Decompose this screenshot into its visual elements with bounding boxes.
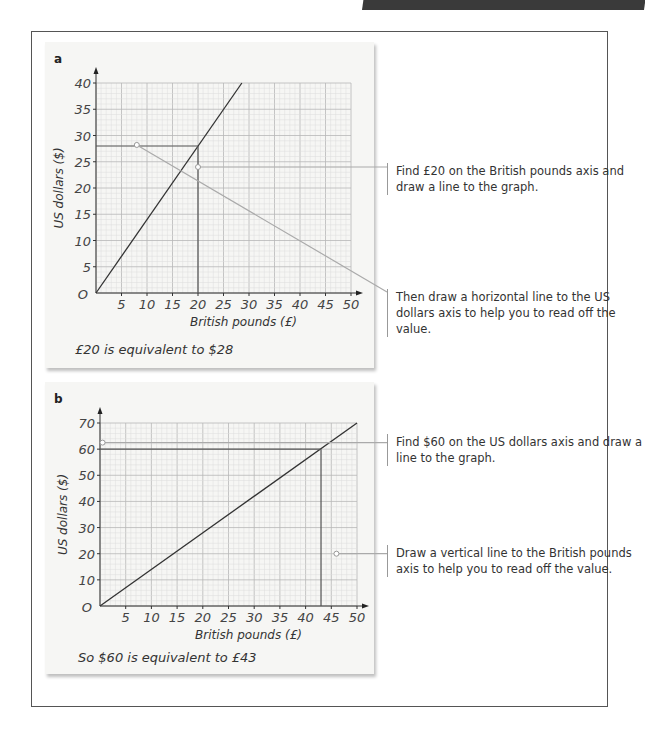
origin-label: O bbox=[78, 287, 88, 302]
callout-marker-icon bbox=[100, 440, 105, 445]
callout-text: Draw a vertical line to the British poun… bbox=[396, 546, 632, 576]
x-tick-label: 5 bbox=[122, 610, 130, 625]
y-tick-label: 15 bbox=[74, 207, 91, 222]
y-tick-label: 10 bbox=[74, 234, 91, 249]
x-tick-label: 50 bbox=[343, 297, 360, 312]
y-tick-label: 10 bbox=[78, 573, 95, 588]
x-tick-label: 40 bbox=[297, 610, 314, 625]
y-axis-label: US dollars ($) bbox=[56, 474, 70, 555]
x-tick-label: 30 bbox=[241, 297, 258, 312]
x-tick-label: 20 bbox=[190, 297, 207, 312]
callout-text: Find £20 on the British pounds axis and … bbox=[396, 164, 624, 194]
callout-horizontal-line: Then draw a horizontal line to the US do… bbox=[387, 289, 644, 337]
x-tick-label: 15 bbox=[169, 610, 186, 625]
callout-text: Then draw a horizontal line to the US do… bbox=[396, 290, 616, 336]
origin-label: O bbox=[82, 600, 92, 615]
y-tick-label: 20 bbox=[74, 181, 91, 196]
y-tick-label: 40 bbox=[74, 76, 91, 91]
y-tick-label: 50 bbox=[78, 468, 95, 483]
y-tick-label: 5 bbox=[83, 260, 91, 275]
x-tick-label: 35 bbox=[266, 297, 283, 312]
panel-b-label: b bbox=[54, 392, 63, 406]
x-tick-label: 35 bbox=[272, 610, 289, 625]
callout-marker-icon bbox=[196, 165, 201, 170]
callout-find-dollars: Find $60 on the US dollars axis and draw… bbox=[387, 434, 644, 466]
y-tick-label: 30 bbox=[74, 129, 91, 144]
x-tick-label: 5 bbox=[117, 297, 125, 312]
callout-marker-icon bbox=[134, 142, 139, 147]
y-tick-label: 70 bbox=[78, 416, 95, 431]
x-tick-label: 45 bbox=[317, 297, 334, 312]
y-tick-label: 35 bbox=[74, 102, 91, 117]
x-tick-label: 20 bbox=[195, 610, 212, 625]
x-tick-label: 10 bbox=[143, 610, 160, 625]
y-axis-label: US dollars ($) bbox=[52, 147, 66, 228]
callout-text: Find $60 on the US dollars axis and draw… bbox=[396, 435, 642, 465]
x-tick-label: 25 bbox=[220, 610, 237, 625]
y-tick-label: 60 bbox=[78, 442, 95, 457]
x-tick-label: 15 bbox=[164, 297, 181, 312]
callout-marker-icon bbox=[334, 551, 339, 556]
panel-a-conclusion: £20 is equivalent to $28 bbox=[75, 342, 233, 357]
y-tick-label: 30 bbox=[78, 521, 95, 536]
x-axis-label: British pounds (£) bbox=[195, 628, 302, 642]
chart-b: 510152025303540455010203040506070OBritis… bbox=[56, 407, 387, 642]
callout-vertical-line: Draw a vertical line to the British poun… bbox=[387, 545, 644, 577]
chart-a: 5101520253035404550510152025303540OBriti… bbox=[52, 67, 387, 329]
callout-find-pounds: Find £20 on the British pounds axis and … bbox=[387, 163, 644, 195]
panel-a-label: a bbox=[54, 52, 62, 66]
x-axis-label: British pounds (£) bbox=[190, 315, 297, 329]
x-tick-label: 10 bbox=[139, 297, 156, 312]
y-tick-label: 20 bbox=[78, 547, 95, 562]
x-tick-label: 25 bbox=[215, 297, 232, 312]
y-tick-label: 40 bbox=[78, 494, 95, 509]
x-tick-label: 45 bbox=[323, 610, 340, 625]
y-tick-label: 25 bbox=[74, 155, 91, 170]
panel-b-conclusion: So $60 is equivalent to £43 bbox=[78, 650, 257, 665]
x-tick-label: 40 bbox=[292, 297, 309, 312]
x-tick-label: 30 bbox=[246, 610, 263, 625]
x-tick-label: 50 bbox=[349, 610, 366, 625]
